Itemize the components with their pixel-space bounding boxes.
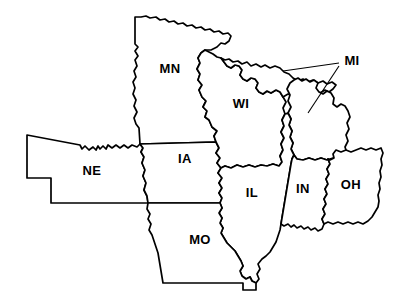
state-label-MO: MO: [189, 232, 211, 247]
midwest-states-map: MN WI MI IA NE IL IN OH MO: [0, 0, 409, 302]
state-label-IL: IL: [246, 185, 258, 200]
leader-line-upper-peninsula: [283, 63, 339, 71]
state-shape-MI-lower-peninsula[interactable]: [287, 78, 350, 160]
state-label-NE: NE: [83, 163, 102, 178]
state-label-OH: OH: [341, 177, 361, 192]
state-label-MN: MN: [159, 61, 180, 76]
state-label-MI: MI: [344, 53, 359, 68]
map-svg-canvas: MN WI MI IA NE IL IN OH MO: [0, 0, 409, 302]
state-label-IA: IA: [178, 151, 192, 166]
state-label-IN: IN: [296, 181, 310, 196]
state-label-WI: WI: [233, 96, 250, 111]
